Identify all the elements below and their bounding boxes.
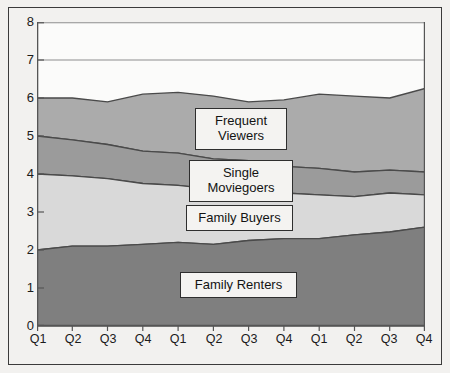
x-axis-tick-8: Q1 [304, 333, 334, 346]
x-axis-tick-1: Q2 [58, 333, 88, 346]
chart-page: 8 7 6 5 4 3 2 1 0 [0, 0, 450, 373]
series-label-frequent-viewers: Frequent Viewers [195, 108, 287, 150]
x-axis-tick-6: Q3 [234, 333, 264, 346]
y-axis-tick-5: 5 [12, 129, 34, 142]
series-label-family-buyers: Family Buyers [186, 205, 293, 231]
x-axis-ticks [38, 326, 425, 331]
y-axis-tick-1: 1 [12, 281, 34, 294]
y-axis-tick-2: 2 [12, 243, 34, 256]
x-axis-tick-11: Q4 [409, 333, 439, 346]
y-axis-tick-8: 8 [12, 15, 34, 28]
x-axis-tick-0: Q1 [23, 333, 53, 346]
y-axis-tick-3: 3 [12, 205, 34, 218]
y-axis-tick-6: 6 [12, 91, 34, 104]
x-axis-tick-10: Q3 [374, 333, 404, 346]
x-axis-tick-3: Q4 [128, 333, 158, 346]
x-axis-tick-4: Q1 [163, 333, 193, 346]
x-axis-tick-5: Q2 [199, 333, 229, 346]
y-axis-tick-0: 0 [12, 319, 34, 332]
y-axis-tick-4: 4 [12, 167, 34, 180]
x-axis-tick-7: Q4 [269, 333, 299, 346]
x-axis-tick-2: Q3 [93, 333, 123, 346]
x-axis-tick-9: Q2 [339, 333, 369, 346]
series-label-single-moviegoers: Single Moviegoers [189, 160, 293, 202]
series-label-family-renters: Family Renters [180, 272, 297, 298]
y-axis-tick-7: 7 [12, 53, 34, 66]
